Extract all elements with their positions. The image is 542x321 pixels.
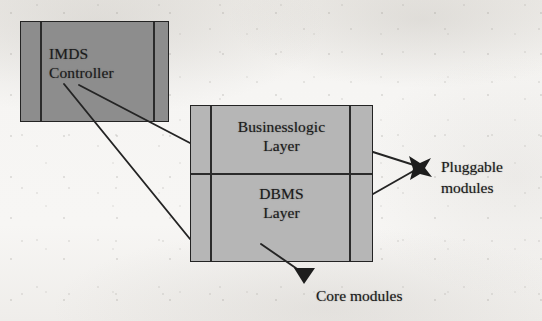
connector-businesslogic-to-pluggable <box>373 152 417 166</box>
imds-box-right-divider <box>153 22 155 121</box>
layer-stack-middle-divider <box>191 173 372 175</box>
pluggable-modules-label-line1: Pluggable <box>441 156 503 177</box>
core-modules-label: Core modules <box>316 285 403 306</box>
imds-controller-label: IMDS Controller <box>49 44 114 82</box>
businesslogic-layer-label-line2: Layer <box>191 136 372 155</box>
businesslogic-layer-label: Businesslogic Layer <box>191 117 372 155</box>
pluggable-modules-arrowhead <box>409 156 432 180</box>
dbms-layer-label-line1: DBMS <box>191 184 372 203</box>
imds-controller-node[interactable]: IMDS Controller <box>20 21 169 122</box>
pluggable-modules-label-line2: modules <box>441 177 503 198</box>
core-modules-arrowhead <box>294 268 315 284</box>
dbms-layer-label: DBMS Layer <box>191 184 372 222</box>
businesslogic-layer-label-line1: Businesslogic <box>191 117 372 136</box>
pluggable-modules-label: Pluggable modules <box>441 156 503 198</box>
imds-box-left-divider <box>40 22 42 121</box>
layer-stack-node[interactable]: Businesslogic Layer DBMS Layer <box>190 105 373 262</box>
diagram-canvas: IMDS Controller Businesslogic Layer DBMS… <box>0 0 542 321</box>
dbms-layer-label-line2: Layer <box>191 203 372 222</box>
connector-dbms-to-pluggable <box>373 169 417 194</box>
imds-controller-label-line1: IMDS <box>49 44 114 63</box>
imds-controller-label-line2: Controller <box>49 63 114 82</box>
